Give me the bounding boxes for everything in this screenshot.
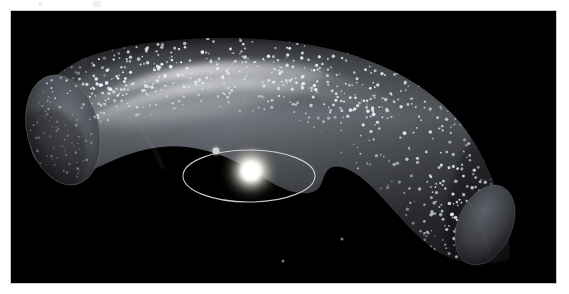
kuiper-object	[438, 166, 441, 169]
kuiper-object	[474, 176, 477, 179]
kuiper-object	[321, 63, 324, 66]
kuiper-object	[52, 91, 54, 93]
kuiper-object	[127, 89, 129, 91]
kuiper-object	[432, 138, 434, 140]
kuiper-object	[158, 76, 160, 78]
kuiper-object	[147, 95, 149, 97]
kuiper-object	[200, 100, 202, 102]
kuiper-object	[452, 165, 455, 168]
kuiper-object	[366, 100, 369, 103]
kuiper-object	[267, 100, 269, 102]
kuiper-object	[398, 180, 401, 183]
kuiper-object	[329, 112, 331, 114]
kuiper-object	[184, 46, 187, 49]
kuiper-object	[458, 199, 460, 201]
kuiper-object	[72, 114, 73, 115]
kuiper-object	[43, 91, 44, 92]
kuiper-object	[279, 66, 280, 67]
kuiper-object	[480, 179, 482, 181]
kuiper-object	[221, 76, 225, 80]
kuiper-object	[292, 103, 295, 106]
kuiper-object	[326, 74, 329, 77]
kuiper-object	[244, 78, 246, 80]
kuiper-object	[426, 181, 428, 183]
kuiper-object	[100, 112, 102, 114]
kuiper-object	[123, 47, 125, 49]
kuiper-object	[328, 106, 330, 108]
kuiper-object	[161, 43, 164, 46]
kuiper-object	[108, 93, 110, 95]
kuiper-object	[423, 204, 425, 206]
kuiper-object	[372, 112, 376, 116]
kuiper-object	[442, 239, 443, 240]
kuiper-object	[364, 68, 367, 71]
kuiper-object	[69, 90, 71, 92]
kuiper-object	[227, 87, 229, 89]
kuiper-object	[92, 75, 95, 78]
kuiper-object	[448, 202, 452, 206]
kuiper-object	[460, 167, 463, 170]
kuiper-object	[217, 95, 220, 98]
kuiper-object	[456, 201, 459, 204]
kuiper-object	[469, 159, 472, 162]
kuiper-object	[301, 51, 304, 54]
kuiper-object	[334, 116, 337, 119]
kuiper-object	[127, 50, 130, 53]
kuiper-object	[430, 175, 433, 178]
kuiper-object	[441, 210, 444, 213]
kuiper-object	[48, 96, 49, 97]
kuiper-object	[349, 96, 352, 99]
kuiper-object	[340, 100, 343, 103]
kuiper-object	[318, 55, 321, 58]
kuiper-object	[102, 85, 103, 86]
kuiper-object	[354, 94, 356, 96]
kuiper-object	[100, 104, 102, 106]
kuiper-object	[444, 225, 446, 227]
kuiper-object	[182, 95, 185, 98]
kuiper-object	[42, 105, 44, 107]
kuiper-object	[336, 96, 339, 99]
kuiper-object	[219, 106, 221, 108]
kuiper-object	[419, 230, 422, 233]
kuiper-object	[152, 83, 154, 85]
kuiper-object	[114, 92, 115, 93]
kuiper-object	[414, 201, 415, 202]
kuiper-object	[343, 101, 345, 103]
kuiper-object	[391, 181, 393, 183]
kuiper-object	[366, 103, 367, 104]
kuiper-object	[147, 85, 150, 88]
kuiper-object	[271, 72, 272, 73]
kuiper-object	[197, 94, 200, 97]
kuiper-object	[182, 104, 183, 105]
kuiper-object	[189, 59, 191, 61]
kuiper-object	[339, 74, 340, 75]
kuiper-object	[101, 66, 104, 69]
kuiper-object	[453, 203, 455, 205]
kuiper-object	[356, 77, 359, 80]
kuiper-object	[111, 79, 113, 81]
kuiper-object	[460, 202, 462, 204]
kuiper-object	[484, 181, 487, 184]
stray-object-2	[340, 237, 343, 240]
kuiper-object	[239, 110, 242, 113]
kuiper-object	[154, 67, 155, 68]
kuiper-object	[336, 86, 338, 88]
kuiper-object	[362, 84, 363, 85]
kuiper-object	[435, 201, 437, 203]
kuiper-object	[245, 61, 248, 64]
kuiper-object	[132, 82, 135, 85]
kuiper-object	[453, 123, 456, 126]
kuiper-object	[85, 71, 87, 73]
kuiper-object	[375, 154, 378, 157]
kuiper-object	[180, 61, 182, 63]
kuiper-object	[123, 88, 125, 90]
kuiper-object	[330, 66, 332, 68]
kuiper-object	[229, 48, 232, 51]
kuiper-object	[448, 225, 450, 227]
kuiper-object	[454, 118, 456, 120]
kuiper-object	[71, 66, 73, 68]
kuiper-object	[82, 103, 85, 106]
kuiper-object	[451, 125, 452, 126]
kuiper-object	[129, 56, 132, 59]
kuiper-object	[374, 86, 376, 88]
